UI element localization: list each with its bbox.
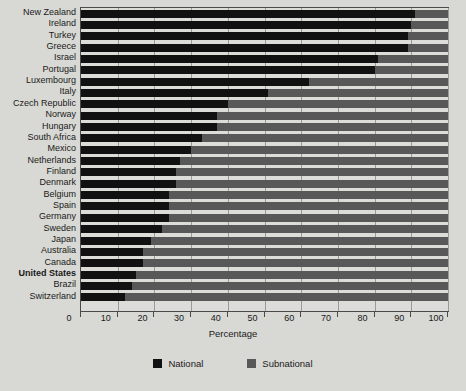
x-tick-mark bbox=[117, 312, 118, 317]
bar-row bbox=[81, 32, 448, 40]
legend-label: Subnational bbox=[262, 358, 312, 369]
x-tick-mark bbox=[227, 312, 228, 317]
legend-swatch-icon bbox=[153, 359, 162, 368]
x-tick-mark bbox=[374, 312, 375, 317]
x-tick-mark bbox=[300, 312, 301, 317]
bar-segment-national bbox=[81, 157, 180, 165]
x-tick-mark bbox=[410, 312, 411, 317]
category-label: Mexico bbox=[0, 144, 76, 153]
bar-row bbox=[81, 282, 448, 290]
gridline-100 bbox=[448, 8, 449, 311]
bar-segment-national bbox=[81, 282, 132, 290]
bar-segment-subnational bbox=[81, 293, 448, 301]
x-tick-mark bbox=[153, 312, 154, 317]
x-tick-label: 30 bbox=[174, 312, 184, 324]
plot-area bbox=[80, 7, 449, 312]
bar-row bbox=[81, 89, 448, 97]
x-axis-ticks: 0102030405060708090100 bbox=[0, 312, 466, 326]
x-tick-mark bbox=[337, 312, 338, 317]
bar-segment-national bbox=[81, 55, 378, 63]
bar-segment-national bbox=[81, 100, 228, 108]
bar-segment-national bbox=[81, 191, 169, 199]
legend-item: National bbox=[153, 358, 203, 369]
bar-row bbox=[81, 259, 448, 267]
chart-legend: NationalSubnational bbox=[0, 358, 466, 369]
bar-segment-national bbox=[81, 214, 169, 222]
x-tick-label: 90 bbox=[394, 312, 404, 324]
percentage-stacked-bar-chart: New ZealandIrelandTurkeyGreeceIsraelPort… bbox=[0, 0, 466, 391]
bar-segment-national bbox=[81, 89, 268, 97]
x-tick-label: 60 bbox=[284, 312, 294, 324]
bar-row bbox=[81, 293, 448, 301]
bar-row bbox=[81, 157, 448, 165]
category-label: Portugal bbox=[0, 65, 76, 74]
x-tick-label: 70 bbox=[321, 312, 331, 324]
category-label: Brazil bbox=[0, 280, 76, 289]
category-label: Ireland bbox=[0, 19, 76, 28]
category-label: Czech Republic bbox=[0, 99, 76, 108]
category-label: Spain bbox=[0, 201, 76, 210]
x-tick-label: 40 bbox=[211, 312, 221, 324]
bar-row bbox=[81, 100, 448, 108]
bar-row bbox=[81, 55, 448, 63]
bar-segment-national bbox=[81, 271, 136, 279]
category-label: Germany bbox=[0, 212, 76, 221]
bar-segment-subnational bbox=[81, 282, 448, 290]
legend-swatch-icon bbox=[247, 359, 256, 368]
bar-segment-national bbox=[81, 248, 143, 256]
bar-row bbox=[81, 214, 448, 222]
category-label: Greece bbox=[0, 42, 76, 51]
bar-row bbox=[81, 271, 448, 279]
category-label: New Zealand bbox=[0, 8, 76, 17]
category-label: Netherlands bbox=[0, 156, 76, 165]
bar-row bbox=[81, 146, 448, 154]
bar-row bbox=[81, 66, 448, 74]
bar-segment-national bbox=[81, 202, 169, 210]
category-label: Finland bbox=[0, 167, 76, 176]
bar-segment-national bbox=[81, 21, 411, 29]
category-label: Italy bbox=[0, 87, 76, 96]
legend-item: Subnational bbox=[247, 358, 312, 369]
bar-row bbox=[81, 123, 448, 131]
x-tick-label: 0 bbox=[66, 312, 71, 324]
category-label: Belgium bbox=[0, 190, 76, 199]
bar-segment-national bbox=[81, 78, 309, 86]
category-label: Luxembourg bbox=[0, 76, 76, 85]
bar-segment-national bbox=[81, 259, 143, 267]
bar-segment-national bbox=[81, 168, 176, 176]
bar-segment-national bbox=[81, 180, 176, 188]
x-tick-mark bbox=[80, 312, 81, 317]
bar-row bbox=[81, 21, 448, 29]
category-label: United States bbox=[0, 269, 76, 278]
category-label: Norway bbox=[0, 110, 76, 119]
x-tick-label: 10 bbox=[101, 312, 111, 324]
category-label: Israel bbox=[0, 53, 76, 62]
bar-segment-national bbox=[81, 66, 375, 74]
bar-row bbox=[81, 44, 448, 52]
bar-row bbox=[81, 10, 448, 18]
bar-segment-national bbox=[81, 134, 202, 142]
bar-segment-national bbox=[81, 123, 217, 131]
bar-row bbox=[81, 134, 448, 142]
x-axis-title: Percentage bbox=[0, 328, 466, 339]
category-label: Australia bbox=[0, 246, 76, 255]
category-label: Turkey bbox=[0, 31, 76, 40]
x-tick-label: 80 bbox=[358, 312, 368, 324]
category-label: Canada bbox=[0, 258, 76, 267]
bar-row bbox=[81, 248, 448, 256]
bar-row bbox=[81, 180, 448, 188]
bar-segment-national bbox=[81, 44, 408, 52]
category-label: Switzerland bbox=[0, 292, 76, 301]
bar-row bbox=[81, 168, 448, 176]
x-tick-mark bbox=[190, 312, 191, 317]
x-tick-label: 100 bbox=[428, 312, 443, 324]
bar-row bbox=[81, 237, 448, 245]
bar-segment-national bbox=[81, 146, 191, 154]
bar-row bbox=[81, 202, 448, 210]
bar-segment-national bbox=[81, 293, 125, 301]
x-tick-mark bbox=[264, 312, 265, 317]
bar-segment-national bbox=[81, 10, 415, 18]
bar-segment-national bbox=[81, 237, 151, 245]
category-label: South Africa bbox=[0, 133, 76, 142]
bar-row bbox=[81, 78, 448, 86]
